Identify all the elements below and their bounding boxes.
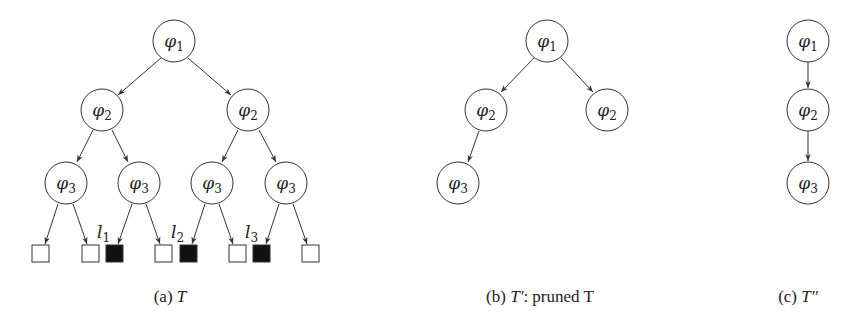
leaf-empty	[155, 245, 172, 262]
node-phi2-right: φ2	[586, 89, 628, 131]
edge-a3-a7	[259, 130, 276, 162]
edge-a4-leaf1	[45, 204, 58, 244]
edge-a7-leaf8	[293, 204, 307, 244]
node-phi3-2: φ3	[118, 162, 160, 204]
node-phi3: φ3	[437, 162, 479, 204]
leaf-empty	[302, 245, 319, 262]
edge-a6-leaf6	[219, 204, 233, 244]
leaf-label-l2: l2	[171, 222, 184, 245]
panel-a-tree: φ1 φ2 φ2 φ3 φ3 φ3 φ3	[32, 20, 319, 306]
edge-a1-a3	[188, 58, 231, 95]
caption-a: (a) T	[154, 287, 188, 306]
edge-a1-a2	[118, 58, 161, 95]
node-phi1: φ1	[526, 20, 568, 62]
node-phi1: φ1	[153, 20, 195, 62]
leaf-filled-l2	[180, 245, 197, 262]
edge-a5-leaf3	[118, 204, 132, 244]
edge-a4-leaf2	[73, 204, 87, 244]
edge-a2-a5	[112, 130, 128, 162]
panel-b-tree: φ1 φ2 φ2 φ3 (b) T′: pruned T	[437, 20, 628, 306]
edge-a7-leaf7	[266, 204, 279, 244]
panel-a-leaves	[32, 245, 319, 262]
node-phi1: φ1	[787, 20, 829, 62]
figure-canvas: φ1 φ2 φ2 φ3 φ3 φ3 φ3	[0, 0, 860, 333]
caption-c: (c) T″	[778, 287, 819, 306]
edge-b1-b2	[501, 58, 534, 92]
panel-a-edges	[45, 58, 307, 244]
node-phi3: φ3	[787, 162, 829, 204]
caption-b: (b) T′: pruned T	[486, 287, 594, 306]
edge-a2-a4	[77, 130, 93, 162]
leaf-filled-l3	[253, 245, 270, 262]
leaf-label-l3: l3	[245, 222, 258, 245]
edge-a5-leaf4	[146, 204, 160, 244]
node-phi3-4: φ3	[265, 162, 307, 204]
leaf-filled-l1	[106, 245, 123, 262]
edge-b2-b4	[468, 131, 479, 162]
leaf-label-l1: l1	[97, 222, 110, 245]
node-phi2: φ2	[787, 89, 829, 131]
panel-c-tree: φ1 φ2 φ3 (c) T″	[778, 20, 829, 306]
leaf-empty	[229, 245, 246, 262]
leaf-empty	[32, 245, 49, 262]
node-phi3-1: φ3	[45, 162, 87, 204]
node-phi2-left: φ2	[81, 89, 123, 131]
edge-a6-leaf5	[192, 204, 205, 244]
leaf-empty	[82, 245, 99, 262]
node-phi2-right: φ2	[227, 89, 269, 131]
node-phi3-3: φ3	[191, 162, 233, 204]
node-phi2-left: φ2	[465, 89, 507, 131]
edge-b1-b3	[561, 58, 593, 92]
edge-a3-a6	[222, 130, 238, 162]
